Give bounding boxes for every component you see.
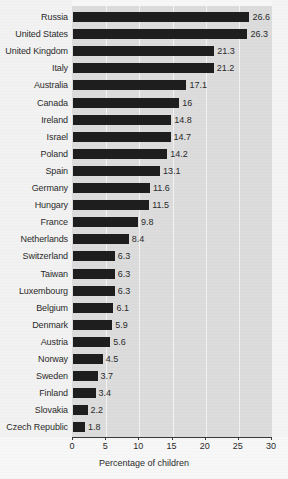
bar-value-label: 11.5 (152, 197, 169, 213)
x-axis-tick-label: 5 (90, 441, 120, 451)
bar (73, 303, 113, 313)
bar-value-label: 21.3 (217, 43, 235, 59)
bar-row: Russia26.6 (0, 8, 288, 26)
category-label: Germany (0, 179, 68, 197)
x-axis-tick (105, 437, 106, 440)
bar (73, 354, 103, 364)
bar-row: Taiwan6.3 (0, 265, 288, 283)
bar (73, 63, 214, 73)
bar (73, 234, 129, 244)
bar (73, 286, 115, 296)
category-label: Switzerland (0, 247, 68, 265)
bar-value-label: 2.2 (91, 402, 104, 418)
bar-value-label: 14.8 (174, 112, 192, 128)
x-axis-tick (72, 437, 73, 440)
bar (73, 405, 88, 415)
bar-value-label: 9.8 (141, 214, 154, 230)
bar-row: Italy21.2 (0, 59, 288, 77)
bar (73, 115, 171, 125)
category-label: Sweden (0, 367, 68, 385)
bar-row: Spain13.1 (0, 162, 288, 180)
bar-row: Netherlands8.4 (0, 230, 288, 248)
x-axis-tick-label: 15 (157, 441, 187, 451)
bar-row: Ireland14.8 (0, 111, 288, 129)
x-axis-tick (138, 437, 139, 440)
x-axis-tick-label: 10 (123, 441, 153, 451)
x-axis-tick (205, 437, 206, 440)
bar-row: Switzerland6.3 (0, 247, 288, 265)
x-axis-tick (271, 437, 272, 440)
bar (73, 29, 247, 39)
bar-row: Luxembourg6.3 (0, 282, 288, 300)
bar (73, 422, 85, 432)
x-axis-tick-label: 30 (256, 441, 286, 451)
bar-row: Canada16 (0, 94, 288, 112)
category-label: Hungary (0, 196, 68, 214)
bar-value-label: 14.2 (170, 146, 188, 162)
bar (73, 200, 149, 210)
bar-value-label: 26.6 (252, 9, 270, 25)
x-axis-title: Percentage of children (0, 458, 288, 468)
category-label: Canada (0, 94, 68, 112)
category-label: Netherlands (0, 230, 68, 248)
category-label: Spain (0, 162, 68, 180)
bar-value-label: 14.7 (174, 129, 192, 145)
category-label: United Kingdom (0, 42, 68, 60)
bar-row: Germany11.6 (0, 179, 288, 197)
bar-row: Poland14.2 (0, 145, 288, 163)
category-label: Italy (0, 59, 68, 77)
bar (73, 12, 249, 22)
bar-value-label: 3.7 (101, 368, 114, 384)
bar-row: Denmark5.9 (0, 316, 288, 334)
bar-value-label: 11.6 (153, 180, 170, 196)
bar-value-label: 26.3 (250, 26, 268, 42)
bar (73, 46, 214, 56)
category-label: Russia (0, 8, 68, 26)
bar (73, 217, 138, 227)
bar (73, 388, 96, 398)
bar-value-label: 6.3 (118, 248, 131, 264)
bar-row: United States26.3 (0, 25, 288, 43)
x-axis-tick-label: 20 (190, 441, 220, 451)
bar (73, 166, 160, 176)
x-axis-tick-label: 0 (57, 441, 87, 451)
category-label: France (0, 213, 68, 231)
bar (73, 132, 171, 142)
bar-value-label: 17.1 (189, 77, 207, 93)
category-label: Norway (0, 350, 68, 368)
bar-value-label: 6.3 (118, 266, 131, 282)
category-label: United States (0, 25, 68, 43)
bar-row: France9.8 (0, 213, 288, 231)
bar-value-label: 8.4 (132, 231, 145, 247)
bar-value-label: 4.5 (106, 351, 119, 367)
bar-row: United Kingdom21.3 (0, 42, 288, 60)
category-label: Austria (0, 333, 68, 351)
bar-value-label: 3.4 (99, 385, 112, 401)
bar-row: Finland3.4 (0, 384, 288, 402)
category-label: Denmark (0, 316, 68, 334)
category-label: Israel (0, 128, 68, 146)
category-label: Taiwan (0, 265, 68, 283)
bar-value-label: 6.3 (118, 283, 131, 299)
category-label: Ireland (0, 111, 68, 129)
category-label: Slovakia (0, 401, 68, 419)
bar-row: Czech Republic1.8 (0, 418, 288, 436)
bar (73, 251, 115, 261)
bar (73, 269, 115, 279)
bar-row: Hungary11.5 (0, 196, 288, 214)
bar-row: Austria5.6 (0, 333, 288, 351)
bar-row: Belgium6.1 (0, 299, 288, 317)
bar (73, 337, 110, 347)
bar-row: Slovakia2.2 (0, 401, 288, 419)
bar-value-label: 13.1 (163, 163, 181, 179)
bar (73, 320, 112, 330)
category-label: Luxembourg (0, 282, 68, 300)
bar (73, 149, 167, 159)
bar (73, 371, 98, 381)
bar-value-label: 5.6 (113, 334, 126, 350)
bar-value-label: 6.1 (116, 300, 129, 316)
bar (73, 80, 186, 90)
bar-chart-figure: Russia26.6United States26.3United Kingdo… (0, 0, 288, 479)
x-axis-tick (238, 437, 239, 440)
category-label: Poland (0, 145, 68, 163)
